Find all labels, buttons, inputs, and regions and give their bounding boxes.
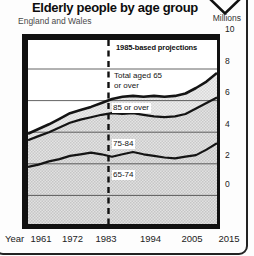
- x-tick-label: 1983: [94, 233, 118, 244]
- y-tick-label: 8: [225, 56, 230, 66]
- projection-note-label: 1985-based projections: [116, 43, 197, 52]
- y-tick-label: 0: [225, 179, 230, 189]
- region-subtitle: England and Wales: [18, 16, 91, 26]
- units-label: Millions: [213, 13, 241, 23]
- x-tick-label: 1994: [139, 233, 163, 244]
- total-line-label-line2: or over: [114, 81, 162, 91]
- y-tick-label: 2: [225, 150, 230, 160]
- chart-frame: 1985-based projections Total aged 65 or …: [22, 34, 220, 229]
- y-tick-label: 6: [225, 87, 230, 97]
- band-label-65-74: 65-74: [112, 170, 135, 180]
- x-tick-label: 1961: [29, 233, 53, 244]
- y-tick-label: 10: [225, 24, 234, 34]
- total-line-label-line1: Total aged 65: [114, 71, 162, 81]
- x-axis-title: Year: [5, 233, 24, 244]
- band-label-75-84: 75-84: [112, 139, 135, 149]
- total-line-label: Total aged 65 or over: [114, 71, 162, 90]
- page-title: Elderly people by age group: [32, 0, 198, 15]
- chart-card: Elderly people by age group England and …: [0, 0, 254, 256]
- y-tick-label: 4: [225, 119, 230, 129]
- band-label-85-plus: 85 or over: [112, 103, 151, 113]
- age-group-area-chart: [28, 40, 217, 224]
- x-tick-label: 2005: [180, 233, 204, 244]
- x-tick-label: 2015: [217, 233, 241, 244]
- x-tick-label: 1972: [61, 233, 85, 244]
